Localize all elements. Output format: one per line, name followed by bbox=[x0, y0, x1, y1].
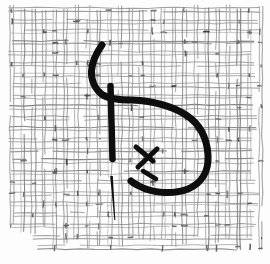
stitch-diagram-svg bbox=[0, 0, 270, 264]
thread-vertical-segment bbox=[111, 86, 113, 159]
scanned-illustration bbox=[0, 0, 270, 264]
